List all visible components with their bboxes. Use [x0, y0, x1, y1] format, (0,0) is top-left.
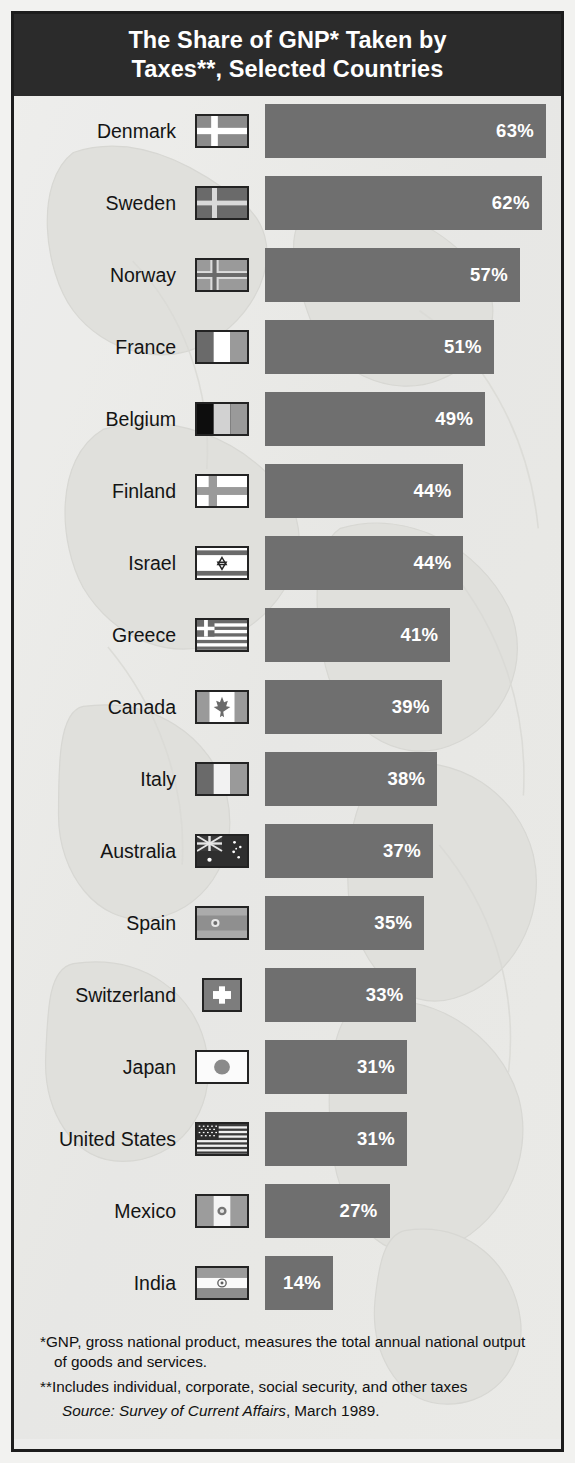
norway-flag: [193, 257, 251, 293]
value-bar: 31%: [265, 1040, 407, 1094]
chart-row: Israel44%: [14, 536, 561, 590]
value-label: 31%: [357, 1056, 407, 1078]
country-label: Greece: [112, 608, 176, 662]
country-label: Belgium: [106, 392, 176, 446]
source-publication: Survey of Current Affairs: [119, 1402, 286, 1419]
footnotes: *GNP, gross national product, measures t…: [14, 1332, 561, 1421]
united-states-flag: [193, 1121, 251, 1157]
value-bar: 51%: [265, 320, 494, 374]
country-label: Mexico: [114, 1184, 176, 1238]
chart-row: Greece41%: [14, 608, 561, 662]
value-bar: 39%: [265, 680, 442, 734]
value-bar: 31%: [265, 1112, 407, 1166]
chart-title: The Share of GNP* Taken by Taxes**, Sele…: [102, 26, 472, 84]
footnote-taxes: **Includes individual, corporate, social…: [40, 1377, 539, 1397]
value-label: 35%: [374, 912, 424, 934]
chart-row: Norway57%: [14, 248, 561, 302]
india-flag: [193, 1265, 251, 1301]
denmark-flag: [193, 113, 251, 149]
value-label: 38%: [387, 768, 437, 790]
country-label: United States: [59, 1112, 176, 1166]
value-bar: 44%: [265, 464, 463, 518]
value-label: 27%: [340, 1200, 390, 1222]
greece-flag: [193, 617, 251, 653]
chart-row: United States31%: [14, 1112, 561, 1166]
bar-chart-plot: Denmark63%Sweden62%Norway57%France51%Bel…: [14, 96, 561, 1324]
value-bar: 57%: [265, 248, 520, 302]
value-bar: 14%: [265, 1256, 333, 1310]
value-label: 33%: [366, 984, 416, 1006]
chart-row: Spain35%: [14, 896, 561, 950]
source-line: Source: Survey of Current Affairs, March…: [40, 1401, 539, 1421]
country-label: Japan: [123, 1040, 176, 1094]
value-bar: 33%: [265, 968, 416, 1022]
country-label: Spain: [126, 896, 176, 950]
chart-row: Finland44%: [14, 464, 561, 518]
value-bar: 62%: [265, 176, 542, 230]
country-label: Canada: [108, 680, 176, 734]
israel-flag: [193, 545, 251, 581]
value-label: 39%: [392, 696, 442, 718]
country-label: Italy: [140, 752, 176, 806]
value-label: 31%: [357, 1128, 407, 1150]
chart-row: Italy38%: [14, 752, 561, 806]
value-label: 44%: [413, 480, 463, 502]
chart-title-band: The Share of GNP* Taken by Taxes**, Sele…: [14, 14, 561, 96]
chart-row: Belgium49%: [14, 392, 561, 446]
country-label: Norway: [110, 248, 176, 302]
value-bar: 63%: [265, 104, 546, 158]
mexico-flag: [193, 1193, 251, 1229]
australia-flag: [193, 833, 251, 869]
value-label: 37%: [383, 840, 433, 862]
source-label: Source:: [62, 1402, 115, 1419]
sweden-flag: [193, 185, 251, 221]
japan-flag: [193, 1049, 251, 1085]
value-bar: 49%: [265, 392, 485, 446]
country-label: Switzerland: [75, 968, 176, 1022]
spain-flag: [193, 905, 251, 941]
value-label: 41%: [400, 624, 450, 646]
chart-row: Mexico27%: [14, 1184, 561, 1238]
chart-row: Denmark63%: [14, 104, 561, 158]
value-label: 57%: [470, 264, 520, 286]
finland-flag: [193, 473, 251, 509]
chart-row: Japan31%: [14, 1040, 561, 1094]
value-label: 44%: [413, 552, 463, 574]
country-label: Finland: [112, 464, 176, 518]
chart-title-line-2: Taxes**, Selected Countries: [132, 56, 444, 82]
source-date: , March 1989.: [286, 1402, 380, 1419]
country-label: France: [115, 320, 176, 374]
chart-row: Canada39%: [14, 680, 561, 734]
poster-frame: The Share of GNP* Taken by Taxes**, Sele…: [11, 11, 564, 1452]
chart-row: France51%: [14, 320, 561, 374]
chart-row: Switzerland33%: [14, 968, 561, 1022]
belgium-flag: [193, 401, 251, 437]
value-bar: 41%: [265, 608, 450, 662]
infographic-poster: The Share of GNP* Taken by Taxes**, Sele…: [0, 0, 575, 1463]
switzerland-flag: [193, 977, 251, 1013]
italy-flag: [193, 761, 251, 797]
value-bar: 37%: [265, 824, 433, 878]
country-label: Sweden: [106, 176, 176, 230]
value-label: 14%: [283, 1272, 333, 1294]
footnote-gnp: *GNP, gross national product, measures t…: [40, 1332, 539, 1373]
value-label: 51%: [444, 336, 494, 358]
value-bar: 44%: [265, 536, 463, 590]
value-bar: 35%: [265, 896, 424, 950]
country-label: India: [134, 1256, 176, 1310]
value-bar: 38%: [265, 752, 437, 806]
chart-title-line-1: The Share of GNP* Taken by: [128, 27, 446, 53]
chart-row: Sweden62%: [14, 176, 561, 230]
chart-row: Australia37%: [14, 824, 561, 878]
footnote-gnp-text: GNP, gross national product, measures th…: [46, 1333, 525, 1370]
country-label: Australia: [100, 824, 176, 878]
value-bar: 27%: [265, 1184, 390, 1238]
value-label: 49%: [435, 408, 485, 430]
france-flag: [193, 329, 251, 365]
country-label: Israel: [128, 536, 176, 590]
country-label: Denmark: [97, 104, 176, 158]
chart-row: India14%: [14, 1256, 561, 1310]
value-label: 63%: [496, 120, 546, 142]
canada-flag: [193, 689, 251, 725]
value-label: 62%: [492, 192, 542, 214]
